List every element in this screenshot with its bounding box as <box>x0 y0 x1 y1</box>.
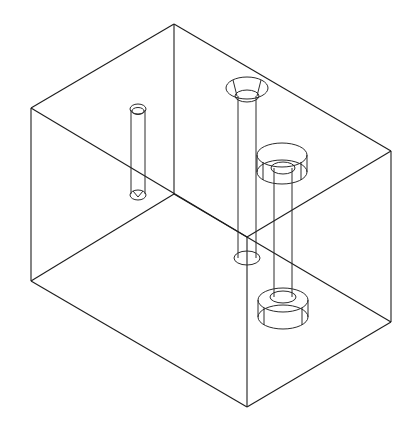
edge-bottom-front-right <box>247 322 391 407</box>
cad-wireframe-drawing <box>0 0 412 427</box>
edge-top-back-left <box>31 24 174 108</box>
small-through-hole <box>130 104 146 200</box>
edge-top-back-right <box>174 24 391 151</box>
edge-bottom-back-left <box>31 194 174 281</box>
edge-bottom-front-left <box>31 281 247 407</box>
edge-top-front-right <box>247 151 391 237</box>
box-wireframe <box>31 24 391 407</box>
counterbored-hole <box>257 143 308 329</box>
